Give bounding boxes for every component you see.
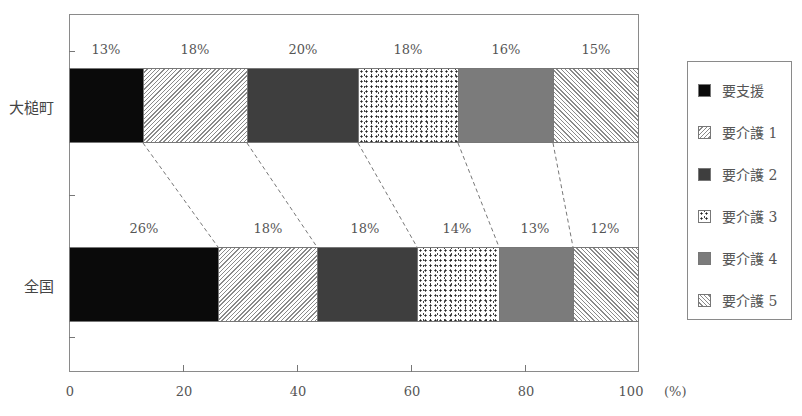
pct-label: 12% bbox=[591, 221, 620, 236]
hatch-swatch-icon bbox=[698, 126, 711, 139]
connector-lines bbox=[0, 0, 802, 416]
segment-care2 bbox=[247, 68, 359, 143]
segment-care3 bbox=[358, 68, 459, 143]
pct-label: 15% bbox=[582, 42, 611, 57]
legend-label: 要支援 bbox=[722, 80, 764, 100]
legend-item-care4: 要介護 4 bbox=[698, 248, 777, 268]
legend-item-support: 要支援 bbox=[698, 80, 764, 100]
bar-otsuchi bbox=[69, 68, 639, 143]
segment-care4 bbox=[499, 247, 574, 322]
legend-label: 要介護 3 bbox=[722, 206, 777, 226]
segment-care1 bbox=[143, 68, 248, 143]
segment-support bbox=[69, 247, 219, 322]
segment-care5 bbox=[573, 247, 639, 322]
reverse-hatch-swatch-icon bbox=[698, 294, 711, 307]
legend-label: 要介護 2 bbox=[722, 164, 777, 184]
pct-label: 18% bbox=[351, 221, 380, 236]
pct-label: 20% bbox=[289, 42, 318, 57]
solid-black-swatch-icon bbox=[698, 84, 711, 97]
pct-label: 13% bbox=[521, 221, 550, 236]
legend-item-care2: 要介護 2 bbox=[698, 164, 777, 184]
pct-label: 18% bbox=[254, 221, 283, 236]
legend-item-care5: 要介護 5 bbox=[698, 290, 777, 310]
pct-label: 18% bbox=[394, 42, 423, 57]
dark-gray-swatch-icon bbox=[698, 168, 711, 181]
legend-label: 要介護 1 bbox=[722, 122, 777, 142]
pct-label: 26% bbox=[130, 221, 159, 236]
segment-care1 bbox=[218, 247, 318, 322]
legend-item-care1: 要介護 1 bbox=[698, 122, 777, 142]
medium-gray-swatch-icon bbox=[698, 252, 711, 265]
pct-label: 16% bbox=[492, 42, 521, 57]
segment-care3 bbox=[417, 247, 500, 322]
pct-label: 13% bbox=[92, 42, 121, 57]
legend-label: 要介護 5 bbox=[722, 290, 777, 310]
pct-label: 18% bbox=[181, 42, 210, 57]
bar-national bbox=[69, 247, 639, 322]
pct-label: 14% bbox=[443, 221, 472, 236]
segment-support bbox=[69, 68, 144, 143]
dotted-swatch-icon bbox=[698, 210, 711, 223]
legend-label: 要介護 4 bbox=[722, 248, 777, 268]
segment-care5 bbox=[553, 68, 639, 143]
legend-item-care3: 要介護 3 bbox=[698, 206, 777, 226]
segment-care2 bbox=[317, 247, 418, 322]
legend: 要支援 要介護 1 要介護 2 要介護 3 要介護 4 要介護 5 bbox=[687, 61, 792, 320]
segment-care4 bbox=[458, 68, 554, 143]
